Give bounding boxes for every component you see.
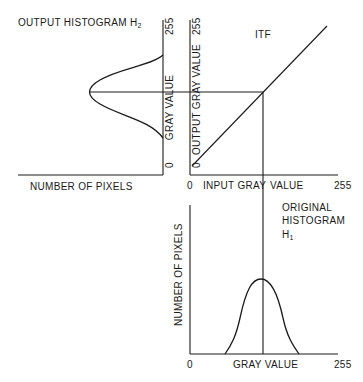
itf-diagram: OUTPUT HISTOGRAM H2 NUMBER OF PIXELS 0GR… (0, 0, 363, 382)
itf-y-max: 255 (191, 17, 202, 35)
itf-y-min: 0 (191, 162, 202, 168)
output-histogram-y-max: 255 (164, 17, 175, 35)
itf-y-label: OUTPUT GRAY VALUE (191, 44, 202, 155)
itf-title: ITF (255, 29, 271, 40)
original-histogram-curve (225, 279, 299, 354)
itf-x-min: 0 (187, 180, 193, 191)
output-histogram-panel: OUTPUT HISTOGRAM H2 NUMBER OF PIXELS 0GR… (18, 17, 175, 192)
output-histogram-curve (90, 55, 164, 138)
original-histogram-title-line2: HISTOGRAM (282, 215, 345, 226)
output-histogram-title: OUTPUT HISTOGRAM H2 (18, 17, 142, 29)
itf-x-max: 255 (334, 180, 352, 191)
itf-x-label-right: VALUE (270, 180, 304, 191)
original-histogram-title-line3: H1 (282, 229, 294, 241)
original-histogram-y-label: NUMBER OF PIXELS (173, 223, 184, 326)
original-histogram-x-min: 0 (187, 359, 193, 370)
itf-x-label-left: INPUT GRAY (203, 180, 266, 191)
output-histogram-x-label: NUMBER OF PIXELS (30, 181, 133, 192)
original-histogram-x-max: 255 (334, 359, 352, 370)
original-histogram-x-label: GRAY VALUE (233, 359, 298, 370)
original-histogram-title-line1: ORIGINAL (282, 202, 332, 213)
output-histogram-y-label: 0GRAY VALUE (164, 75, 175, 168)
original-histogram-panel: ORIGINAL HISTOGRAM H1 NUMBER OF PIXELS 0… (173, 202, 352, 370)
itf-transfer-line (192, 26, 327, 166)
